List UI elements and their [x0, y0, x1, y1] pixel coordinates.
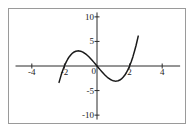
x-tick-label: -2 — [61, 68, 69, 77]
y-tick-label: 10 — [85, 12, 94, 21]
x-tick-label: 2 — [127, 68, 132, 77]
plot-frame: -4-2024-10-5510 — [8, 8, 186, 124]
x-tick-label: -4 — [28, 68, 36, 77]
y-tick-label: -10 — [82, 111, 94, 120]
y-tick-label: 5 — [90, 37, 95, 46]
x-tick-label: 0 — [92, 67, 97, 76]
graph-screenshot: -4-2024-10-5510 — [0, 0, 196, 132]
y-tick-label: -5 — [87, 86, 95, 95]
x-tick-label: 4 — [160, 68, 165, 77]
cubic-function-plot — [9, 9, 185, 123]
